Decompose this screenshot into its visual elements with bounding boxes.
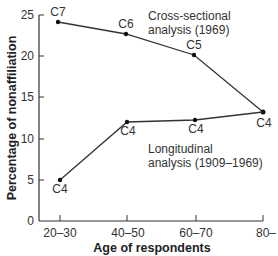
y-ticks	[39, 15, 44, 180]
y-axis-title: Percentage of nonaffiliation	[5, 36, 19, 201]
point-label: C6	[118, 17, 134, 31]
point-label: C7	[50, 5, 66, 19]
point-label: C4	[188, 122, 204, 136]
y-tick-label: 25	[21, 8, 35, 22]
cross-sectional-annotation: analysis (1969)	[148, 23, 229, 37]
line-chart: 25 20 15 10 5 0 20–30 40–50 60–70 80– Ag…	[0, 0, 278, 256]
y-tick-label: 10	[21, 132, 35, 146]
y-tick-label: 20	[21, 49, 35, 63]
y-tick-label: 5	[27, 173, 34, 187]
longitudinal-annotation: analysis (1909–1969)	[148, 156, 263, 170]
y-tick-label: 15	[21, 90, 35, 104]
point-label: C4	[256, 116, 272, 130]
x-tick-label: 20–30	[43, 226, 77, 240]
x-tick-label: 80–	[256, 226, 276, 240]
longitudinal-annotation: Longitudinal	[148, 142, 213, 156]
cross-sectional-annotation: Cross-sectional	[148, 9, 231, 23]
point-label: C4	[120, 124, 136, 138]
x-tick-label: 40–50	[111, 226, 145, 240]
point-label: C5	[186, 38, 202, 52]
x-tick-label: 60–70	[179, 226, 213, 240]
x-ticks	[60, 215, 263, 221]
y-tick-label: 0	[27, 214, 34, 228]
x-axis-title: Age of respondents	[93, 241, 210, 255]
point-label: C4	[52, 182, 68, 196]
